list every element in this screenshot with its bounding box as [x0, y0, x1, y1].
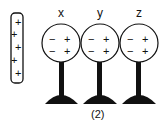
charge-induction-diagram: + + + + + x − − + + y − − + + z − − + + …	[0, 0, 168, 124]
stand-pole	[136, 62, 141, 96]
charged-rod: + + + + +	[11, 13, 23, 83]
positive-charge: +	[142, 33, 148, 45]
rod-charge: +	[15, 41, 21, 53]
sphere-x: x − − + +	[42, 6, 80, 104]
positive-charge: +	[103, 45, 109, 57]
negative-charge: −	[49, 45, 55, 57]
sphere-label: y	[97, 6, 103, 20]
stand-pole	[97, 62, 102, 96]
rod-charge: +	[15, 67, 21, 79]
positive-charge: +	[103, 33, 109, 45]
negative-charge: −	[127, 33, 133, 45]
rod-charge: +	[15, 16, 21, 28]
sphere-label: x	[58, 6, 64, 20]
negative-charge: −	[127, 45, 133, 57]
negative-charge: −	[49, 33, 55, 45]
rod-charge: +	[11, 28, 17, 40]
sphere-label: z	[136, 6, 142, 20]
rod-charge: +	[11, 54, 17, 66]
figure-caption: (2)	[91, 108, 104, 120]
negative-charge: −	[88, 45, 94, 57]
stand-pole	[59, 62, 64, 96]
stand-base	[45, 95, 78, 104]
positive-charge: +	[142, 45, 148, 57]
sphere-z: z − − + +	[120, 6, 158, 104]
negative-charge: −	[88, 33, 94, 45]
stand-base	[83, 95, 117, 104]
sphere-y: y − − + +	[81, 6, 119, 104]
positive-charge: +	[64, 45, 70, 57]
stand-base	[122, 95, 156, 104]
positive-charge: +	[64, 33, 70, 45]
